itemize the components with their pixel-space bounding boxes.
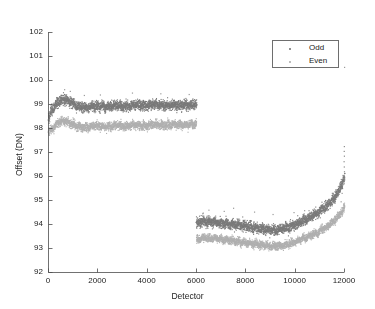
legend-marker-even: [289, 61, 291, 63]
x-axis-title: Detector: [0, 291, 375, 301]
y-tick-label: 100: [19, 75, 43, 84]
legend-entry-odd: Odd: [273, 42, 340, 55]
x-tick-label: 10000: [275, 276, 315, 285]
x-tick-label: 2000: [77, 276, 117, 285]
y-tick-label: 94: [19, 219, 43, 228]
y-tick-label: 102: [19, 27, 43, 36]
x-tick-label: 4000: [127, 276, 167, 285]
legend-entry-even: Even: [273, 55, 340, 68]
legend-marker-odd: [289, 48, 291, 50]
y-tick-label: 101: [19, 51, 43, 60]
x-tick-label: 0: [28, 276, 68, 285]
chart-legend: Odd Even: [272, 40, 339, 68]
figure-container: 9293949596979899100101102 02000400060008…: [0, 0, 375, 309]
legend-label-even: Even: [309, 56, 327, 65]
y-tick-label: 92: [19, 267, 43, 276]
y-tick-label: 93: [19, 243, 43, 252]
y-tick-label: 99: [19, 99, 43, 108]
x-tick-label: 8000: [225, 276, 265, 285]
x-tick-label: 6000: [176, 276, 216, 285]
y-tick-label: 95: [19, 195, 43, 204]
legend-label-odd: Odd: [309, 43, 324, 52]
x-tick-label: 12000: [324, 276, 364, 285]
y-axis-title: Offset (DN): [14, 133, 24, 176]
y-tick-label: 98: [19, 123, 43, 132]
